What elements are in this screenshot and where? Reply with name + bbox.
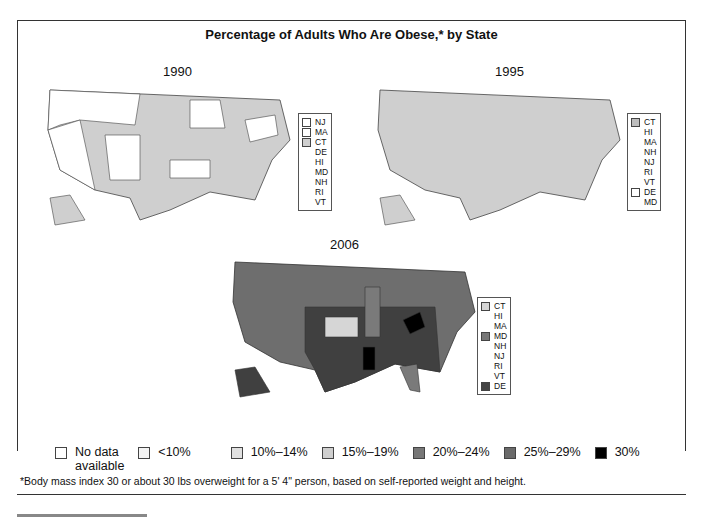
us-map-1990 xyxy=(40,80,300,230)
legend-item-20-24: 20%–24% xyxy=(413,445,490,473)
us-map-1995 xyxy=(370,80,630,230)
us-map-2006 xyxy=(225,252,485,402)
legend-item-30: 30% xyxy=(595,445,640,473)
divider xyxy=(17,494,686,495)
legend-item-25-29: 25%–29% xyxy=(504,445,581,473)
legend-item-lt10: <10% xyxy=(138,445,190,473)
legend-item-no-data: No dataavailable xyxy=(55,445,124,473)
legend-item-10-14: 10%–14% xyxy=(231,445,308,473)
legend: No dataavailable <10% 10%–14% 15%–19% 20… xyxy=(55,445,654,473)
year-label-1990: 1990 xyxy=(163,64,192,79)
footnote: *Body mass index 30 or about 30 lbs over… xyxy=(20,475,526,487)
key-2006: CT HI MA MD NH NJ RI VT DE xyxy=(477,297,511,395)
legend-item-15-19: 15%–19% xyxy=(322,445,399,473)
key-1995: CT HI MA NH NJ RI VT DE MD xyxy=(627,113,661,211)
year-label-2006: 2006 xyxy=(330,237,359,252)
swatch-no-data xyxy=(302,118,311,127)
key-1990: NJ MA CT DE HI MD NH RI VT xyxy=(298,113,332,211)
figure-title: Percentage of Adults Who Are Obese,* by … xyxy=(18,27,685,42)
year-label-1995: 1995 xyxy=(495,64,524,79)
